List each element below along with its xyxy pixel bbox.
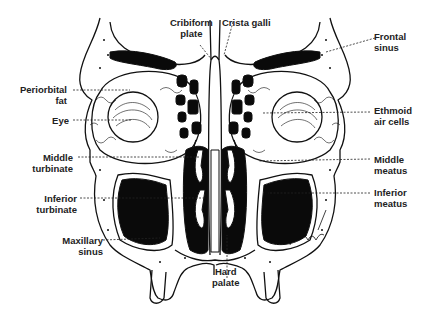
maxillary-sinus-right <box>262 179 313 245</box>
label-hard-palate: Hard palate <box>212 266 239 288</box>
ethmoid-cell <box>177 75 187 87</box>
label-middle-turbinate: Middle turbinate <box>32 152 73 174</box>
label-ethmoid-air-cells: Ethmoid air cells <box>374 105 412 127</box>
frontal-sinus-left <box>110 51 176 70</box>
label-frontal-sinus: Frontal sinus <box>374 31 406 53</box>
label-cribriform-plate: Cribiform plate <box>170 17 213 39</box>
maxillary-sinus-left <box>118 179 169 245</box>
label-middle-meatus: Middle meatus <box>374 154 407 176</box>
label-inferior-meatus: Inferior meatus <box>374 187 407 209</box>
anatomy-diagram: Cribiform plate Crista galli Frontal sin… <box>0 0 425 311</box>
label-inferior-turbinate: Inferior turbinate <box>36 193 77 215</box>
label-maxillary-sinus: Maxillary sinus <box>62 235 103 257</box>
frontal-sinus-right <box>254 51 320 70</box>
label-periorbital-fat: Periorbital fat <box>20 84 67 106</box>
label-eye: Eye <box>52 115 69 126</box>
eye-left <box>108 92 158 142</box>
label-crista-galli: Crista galli <box>222 17 271 28</box>
